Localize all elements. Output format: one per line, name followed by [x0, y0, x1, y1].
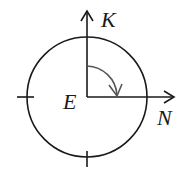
vertical-axis-k: [81, 11, 93, 97]
rotation-arc: [87, 66, 122, 96]
horizontal-axis-n: [87, 91, 174, 103]
label-k: K: [100, 7, 117, 32]
diagram-canvas: K N E: [0, 0, 191, 180]
label-e: E: [62, 89, 77, 114]
label-n: N: [156, 105, 173, 130]
